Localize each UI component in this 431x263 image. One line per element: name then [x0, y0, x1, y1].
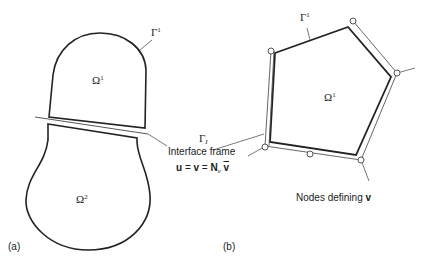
eq-N: N — [210, 162, 217, 173]
diagram-canvas — [0, 0, 431, 263]
node-leader-left — [248, 147, 264, 156]
gamma1-label: Γ1 — [151, 27, 161, 38]
gamma1-leader-line — [140, 40, 152, 50]
panel-a-label: (a) — [8, 242, 20, 252]
eq-equals: = — [199, 162, 210, 173]
interface-leader-line — [148, 134, 167, 146]
omega-symbol: Ω — [92, 74, 100, 86]
gamma1-leader-line-b — [307, 28, 310, 40]
superscript: 1 — [332, 91, 336, 99]
eq-equals: = — [182, 162, 193, 173]
node-circle — [350, 18, 356, 24]
interface-frame-caption: Interface frame — [168, 147, 235, 157]
subscript: I — [205, 138, 207, 146]
omega2-label: Ω2 — [76, 194, 88, 205]
eq-N-subscript: v — [218, 168, 221, 174]
omega-symbol: Ω — [76, 193, 84, 205]
superscript: 2 — [84, 193, 88, 201]
node-circle — [358, 157, 364, 163]
nodes-caption-v: v — [366, 192, 372, 203]
node-circle — [268, 48, 274, 54]
omega1-label: Ω1 — [92, 75, 104, 86]
omega-symbol: Ω — [324, 91, 332, 103]
panel-b-label: (b) — [223, 242, 235, 252]
superscript: 1 — [306, 11, 310, 19]
node-circle — [394, 70, 400, 76]
eq-vbar: v — [224, 162, 230, 173]
nodes-caption: Nodes defining v — [296, 193, 371, 203]
nodes-caption-text: Nodes defining — [296, 192, 366, 203]
domain-omega2-boundary — [26, 124, 150, 250]
omega1-label-b: Ω1 — [324, 92, 336, 103]
gamma-i-label: ΓI — [199, 133, 208, 146]
superscript: 1 — [100, 74, 104, 82]
node-circle — [262, 144, 268, 150]
superscript: 1 — [157, 26, 161, 34]
gamma1-label-b: Γ1 — [300, 12, 310, 23]
interface-equation: u = v = Nv v — [176, 163, 229, 174]
node-circle — [307, 151, 313, 157]
